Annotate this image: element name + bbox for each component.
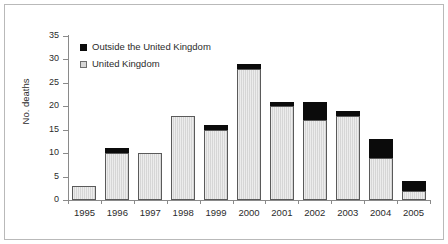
y-tick-label: 35	[35, 31, 59, 40]
x-tick-mark	[397, 200, 398, 204]
x-tick-mark	[265, 200, 266, 204]
bar-segment-united-kingdom	[303, 120, 327, 200]
bar-stack	[336, 36, 360, 200]
x-tick-mark	[430, 200, 431, 204]
y-tick-label: 0	[35, 195, 59, 204]
x-tick-mark	[200, 200, 201, 204]
gray-square-icon	[80, 61, 87, 68]
x-tick-mark	[233, 200, 234, 204]
bar-stack	[303, 36, 327, 200]
bar-segment-united-kingdom	[270, 106, 294, 200]
x-tick-label: 2005	[394, 207, 434, 219]
x-tick-mark	[167, 200, 168, 204]
bar-segment-outside-united-kingdom	[336, 111, 360, 116]
bar-segment-united-kingdom	[72, 186, 96, 200]
legend-item-united-kingdom: United Kingdom	[80, 57, 211, 71]
y-tick-label-wrap: 10	[33, 148, 59, 157]
bar-stack	[270, 36, 294, 200]
bar-segment-united-kingdom	[204, 130, 228, 200]
y-tick-label-wrap: 20	[33, 101, 59, 110]
bar-segment-united-kingdom	[237, 69, 261, 200]
bar-segment-outside-united-kingdom	[303, 102, 327, 121]
bar-segment-united-kingdom	[138, 153, 162, 200]
bar-segment-outside-united-kingdom	[105, 148, 129, 153]
y-tick-label: 20	[35, 101, 59, 110]
bar-segment-outside-united-kingdom	[402, 181, 426, 190]
x-tick-mark	[101, 200, 102, 204]
bar-stack	[237, 36, 261, 200]
bar-segment-united-kingdom	[402, 191, 426, 200]
y-tick-label-wrap: 30	[33, 54, 59, 63]
bar-stack	[402, 36, 426, 200]
black-square-icon	[80, 44, 87, 51]
x-tick-mark	[134, 200, 135, 204]
bar-segment-united-kingdom	[336, 116, 360, 200]
y-tick-label-wrap: 25	[33, 78, 59, 87]
chart-legend: Outside the United Kingdom United Kingdo…	[80, 40, 211, 74]
y-tick-label-wrap: 15	[33, 125, 59, 134]
y-tick-label-wrap: 5	[33, 172, 59, 181]
y-tick-label: 5	[35, 172, 59, 181]
y-tick-label-wrap: 35	[33, 31, 59, 40]
y-tick-label: 15	[35, 125, 59, 134]
bar-segment-united-kingdom	[105, 153, 129, 200]
bar-stack	[369, 36, 393, 200]
legend-item-outside-uk: Outside the United Kingdom	[80, 40, 211, 54]
chart-figure: No. deaths 05101520253035 19951996199719…	[0, 0, 448, 244]
y-tick-label: 10	[35, 148, 59, 157]
legend-label-united-kingdom: United Kingdom	[92, 59, 160, 69]
y-tick-label: 30	[35, 54, 59, 63]
legend-label-outside-uk: Outside the United Kingdom	[92, 42, 211, 52]
x-tick-mark	[331, 200, 332, 204]
bar-segment-outside-united-kingdom	[369, 139, 393, 158]
y-tick-label-wrap: 0	[33, 195, 59, 204]
x-tick-mark	[68, 200, 69, 204]
x-tick-mark	[298, 200, 299, 204]
x-tick-mark	[364, 200, 365, 204]
x-axis-line	[68, 200, 431, 201]
y-axis-title: No. deaths	[20, 66, 31, 138]
bar-segment-outside-united-kingdom	[270, 102, 294, 107]
bar-segment-united-kingdom	[369, 158, 393, 200]
bar-segment-outside-united-kingdom	[204, 125, 228, 130]
y-tick-label: 25	[35, 78, 59, 87]
bar-segment-outside-united-kingdom	[237, 64, 261, 69]
bar-segment-united-kingdom	[171, 116, 195, 200]
